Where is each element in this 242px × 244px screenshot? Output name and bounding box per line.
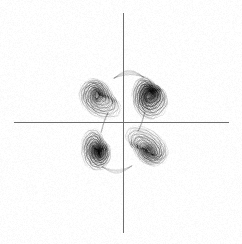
attractor-plot-canvas	[0, 0, 242, 244]
attractor-figure	[0, 0, 242, 244]
